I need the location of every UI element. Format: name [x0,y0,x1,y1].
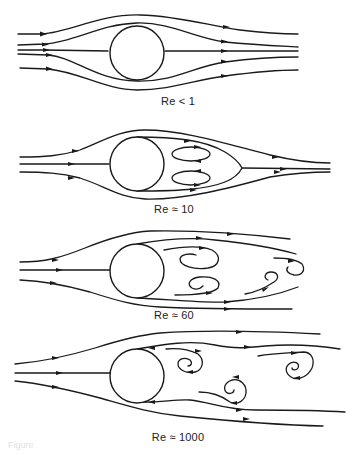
label-re-10: Re ≈ 10 [154,203,194,215]
cylinder-flow-figure [0,0,362,455]
panel-re-10 [20,130,330,199]
label-re-60: Re ≈ 60 [154,309,194,321]
eddy-upper [172,147,210,161]
cylinder [110,244,164,298]
panel-re-60 [20,231,304,311]
label-re-1000: Re ≈ 1000 [152,431,204,443]
figure-caption: Figure [8,440,34,450]
cylinder [110,349,164,403]
cylinder [110,26,164,80]
panel-re-lt-1 [18,15,298,90]
panel-re-1000 [15,330,345,426]
eddy-lower [172,171,210,185]
label-re-lt-1: Re < 1 [161,95,195,107]
cylinder [110,137,164,191]
